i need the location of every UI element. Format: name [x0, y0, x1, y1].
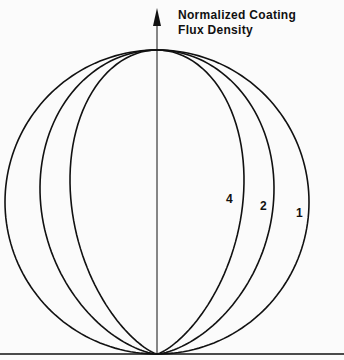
- axis-title: Normalized Coating Flux Density: [178, 8, 296, 38]
- axis-title-line1: Normalized Coating: [178, 8, 296, 23]
- arrowhead-icon: [153, 8, 161, 26]
- curve-label-1: 1: [296, 206, 303, 220]
- curve-label-2: 2: [260, 199, 267, 213]
- polar-flux-plot: [0, 0, 344, 360]
- diagram: Normalized Coating Flux Density 124: [0, 0, 344, 360]
- curve-label-4: 4: [226, 192, 233, 206]
- axis-title-line2: Flux Density: [178, 23, 296, 38]
